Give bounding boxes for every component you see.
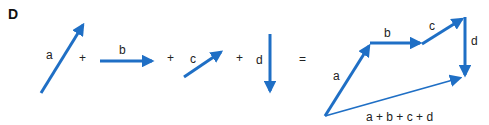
chain-vector-b-label: b bbox=[384, 26, 391, 40]
chain-vector-d-label: d bbox=[471, 34, 478, 48]
panel-label: D bbox=[8, 6, 18, 22]
plus-operator-2: + bbox=[167, 51, 174, 65]
vector-a: a bbox=[41, 25, 83, 93]
plus-operator-1: + bbox=[79, 51, 86, 65]
vector-addition-diagram: D a + b + c + d = a b c d a + b + c + d bbox=[0, 0, 489, 125]
vector-d: d bbox=[256, 34, 270, 91]
chain-vector-c-label: c bbox=[429, 19, 435, 33]
vector-b-label: b bbox=[119, 43, 126, 57]
chain-vector-a-label: a bbox=[333, 69, 340, 83]
sum-diagram: a b c d a + b + c + d bbox=[325, 17, 478, 124]
resultant-vector-label: a + b + c + d bbox=[366, 110, 433, 124]
vector-c-label: c bbox=[190, 52, 196, 66]
vector-d-label: d bbox=[256, 53, 263, 67]
equals-operator: = bbox=[299, 52, 306, 66]
chain-vector-c-arrow bbox=[422, 19, 462, 44]
vector-b: b bbox=[100, 43, 152, 61]
vector-c: c bbox=[184, 52, 221, 77]
plus-operator-3: + bbox=[236, 51, 243, 65]
vector-a-label: a bbox=[46, 48, 53, 62]
